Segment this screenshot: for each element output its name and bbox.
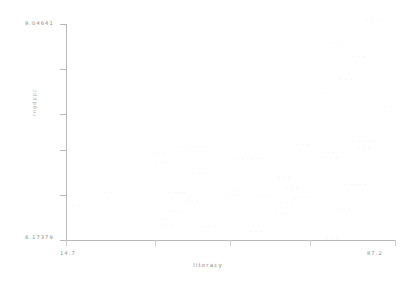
y-axis-tick [60, 195, 66, 196]
scatter-point: · · · [250, 229, 263, 234]
scatter-point: · · · [286, 185, 299, 190]
x-axis-tick [66, 240, 67, 246]
scatter-point: · · · [353, 54, 366, 59]
scatter-point: · · · [338, 207, 351, 212]
scatter-point: · · · [296, 142, 309, 147]
x-axis-min-label: 14.7 [60, 250, 76, 256]
y-axis-max-label: 9.04641 [25, 20, 54, 26]
scatter-point: · · [385, 104, 393, 109]
scatter-point: · · · [326, 155, 339, 160]
y-axis-tick [60, 114, 66, 115]
x-axis-tick [395, 240, 396, 246]
scatter-point: · · · [228, 193, 241, 198]
scatter-point: · · · · [168, 190, 186, 195]
scatter-point: · · · [160, 223, 173, 228]
scatter-point: · · [104, 190, 112, 195]
x-axis-tick [155, 240, 156, 246]
y-axis-tick [60, 24, 66, 25]
scatter-point: · · · [295, 195, 308, 200]
scatter-point: · · · [192, 171, 205, 176]
y-axis-tick [60, 69, 66, 70]
y-axis-tick [60, 150, 66, 151]
x-axis-title: literacy [0, 262, 416, 268]
scatter-point: · · · [204, 224, 217, 229]
scatter-point: · · · · · [344, 182, 368, 187]
scatter-point: · · · [168, 209, 181, 214]
scatter-point: · · · · [258, 194, 276, 199]
scatter-point: · · · [186, 199, 199, 204]
scatter-point: · · · [281, 200, 294, 205]
y-axis-min-label: 6.17379 [25, 234, 54, 240]
x-axis-line [66, 240, 396, 241]
scatter-point: · · · · · · [236, 156, 265, 161]
scatter-point: · · · [275, 211, 288, 216]
scatter-point: · · · [340, 77, 353, 82]
scatter-point: · · [161, 217, 169, 222]
y-axis-title: lngdppc [31, 82, 37, 122]
scatter-point: · · · · · · [178, 144, 207, 149]
scatter-point: · · · [155, 160, 168, 165]
scatter-point: · · · [68, 203, 81, 208]
scatter-point: · · · · · [352, 139, 376, 144]
x-axis-tick [310, 240, 311, 246]
y-axis-line [66, 24, 67, 240]
scatter-plot-figure: 9.04641 6.17379 14.7 87.2 literacy lngdp… [0, 0, 416, 287]
x-axis-max-label: 87.2 [367, 250, 383, 256]
scatter-point: · · · [358, 146, 371, 151]
scatter-point: · · [234, 188, 242, 193]
x-axis-tick [230, 240, 231, 246]
scatter-point: · · · [326, 236, 339, 241]
scatter-point: · · · [278, 175, 291, 180]
scatter-point: · · · [330, 40, 343, 45]
scatter-point: · · · · [366, 18, 384, 23]
scatter-point: · · [325, 91, 333, 96]
scatter-point: · · · [152, 151, 165, 156]
